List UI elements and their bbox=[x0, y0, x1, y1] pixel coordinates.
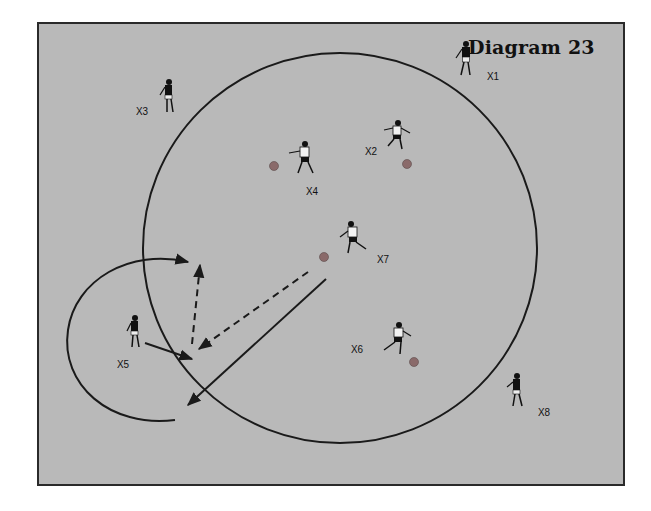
player-label-x7: X7 bbox=[377, 253, 389, 265]
player-x3-figure bbox=[160, 79, 173, 112]
diagram-title: Diagram 23 bbox=[468, 36, 595, 58]
ball bbox=[403, 160, 412, 169]
playing-circle bbox=[143, 53, 537, 443]
player-label-x5: X5 bbox=[117, 358, 129, 370]
ball bbox=[410, 358, 419, 367]
player-x5-figure bbox=[127, 315, 139, 347]
player-x8-figure bbox=[507, 373, 522, 406]
dashed-upfield-arrow bbox=[192, 265, 200, 344]
player-x2-figure bbox=[384, 120, 410, 149]
player-label-x1: X1 bbox=[487, 70, 499, 82]
player-label-x6: X6 bbox=[351, 343, 363, 355]
player-label-x4: X4 bbox=[306, 185, 318, 197]
player-label-x8: X8 bbox=[538, 406, 550, 418]
player-x7-figure bbox=[340, 221, 366, 253]
diagram-canvas bbox=[0, 0, 651, 511]
ball bbox=[270, 162, 279, 171]
ball bbox=[320, 253, 329, 262]
player-x4-figure bbox=[289, 141, 313, 173]
player-label-x3: X3 bbox=[136, 105, 148, 117]
player-label-x2: X2 bbox=[365, 145, 377, 157]
player-x6-figure bbox=[384, 322, 411, 354]
x5-run-arc bbox=[67, 259, 188, 421]
